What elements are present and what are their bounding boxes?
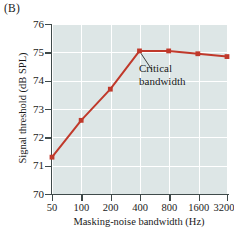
y-axis-tick	[45, 81, 51, 82]
x-axis-tick-label: 400	[132, 202, 148, 213]
panel-label: (B)	[4, 2, 20, 15]
plot-area	[52, 24, 228, 194]
gridline-vertical	[199, 24, 200, 194]
x-axis-tick	[52, 195, 53, 201]
y-axis-tick	[45, 166, 51, 167]
annotation-critical-bandwidth: Critical bandwidth	[139, 62, 185, 87]
x-axis-tick-label: 200	[103, 202, 119, 213]
gridline-vertical	[111, 24, 112, 194]
annotation-line-1: Critical	[139, 62, 185, 75]
x-axis-tick	[199, 195, 200, 201]
y-axis-tick	[45, 109, 51, 110]
x-axis-tick	[227, 195, 228, 201]
gridline-vertical	[227, 24, 228, 194]
y-axis-tick	[45, 52, 51, 53]
x-axis-tick	[81, 195, 82, 201]
y-axis-tick	[45, 137, 51, 138]
x-axis-tick-label: 50	[47, 202, 58, 213]
y-axis-title: Signal threshold (dB SPL)	[17, 23, 29, 193]
x-axis-tick	[169, 195, 170, 201]
gridline-vertical	[140, 24, 141, 194]
x-axis-tick	[140, 195, 141, 201]
y-axis-tick	[45, 194, 51, 195]
y-axis-tick	[45, 24, 51, 25]
edge-clipped-text	[2, 192, 16, 222]
annotation-line-2: bandwidth	[139, 75, 185, 88]
x-axis-title: Masking-noise bandwidth (Hz)	[44, 216, 234, 228]
gridline-vertical	[169, 24, 170, 194]
figure-panel-b: (B) 76 75 74 73 72 71 70 50 100 200	[0, 0, 234, 233]
gridline-vertical	[81, 24, 82, 194]
x-axis-tick-label: 100	[73, 202, 89, 213]
x-axis-tick-label: 800	[161, 202, 177, 213]
x-axis-tick-label: 3200	[214, 202, 235, 213]
x-axis-tick-label: 1600	[188, 202, 209, 213]
y-axis-line	[51, 24, 52, 195]
x-axis-tick	[111, 195, 112, 201]
